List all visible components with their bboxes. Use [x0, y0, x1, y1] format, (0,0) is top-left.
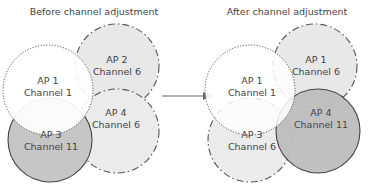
ap3-name: AP 3	[241, 129, 262, 140]
ap3-channel: Channel 11	[24, 141, 78, 152]
before-title: Before channel adjustment	[30, 6, 159, 17]
ap1-ch6-channel: Channel 6	[292, 66, 340, 77]
ap4-channel: Channel 11	[294, 119, 348, 130]
channel-adjustment-diagram: Before channel adjustment AP 2 Channel 6…	[0, 0, 376, 194]
ap1-name: AP 1	[241, 75, 262, 86]
ap1-ch6-name: AP 1	[305, 54, 326, 65]
ap1-name: AP 1	[37, 75, 58, 86]
ap4-channel: Channel 6	[92, 119, 140, 130]
ap2-name: AP 2	[106, 54, 127, 65]
ap3-name: AP 3	[40, 129, 61, 140]
ap1-channel: Channel 1	[24, 87, 72, 98]
ap4-name: AP 4	[310, 107, 331, 118]
ap3-channel: Channel 6	[228, 141, 276, 152]
ap4-name: AP 4	[105, 107, 126, 118]
ap1-channel: Channel 1	[228, 87, 276, 98]
after-panel: After channel adjustment AP 1 Channel 6 …	[205, 6, 360, 182]
ap2-channel: Channel 6	[93, 66, 141, 77]
after-title: After channel adjustment	[227, 6, 348, 17]
right-arrow-icon	[162, 92, 211, 100]
before-panel: Before channel adjustment AP 2 Channel 6…	[3, 6, 159, 182]
